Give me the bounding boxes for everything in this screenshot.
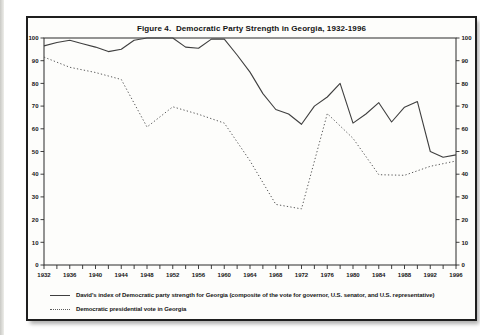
x-tick-label: 1948: [140, 272, 154, 278]
series-line-davids-index: [44, 38, 456, 157]
legend-item-davids-index: David's index of Democratic party streng…: [50, 288, 470, 302]
legend-label-davids-index: David's index of Democratic party streng…: [76, 292, 434, 298]
x-tick-label: 1996: [449, 272, 463, 278]
y-tick-label-right: 50: [462, 149, 469, 155]
y-tick-label-right: 10: [462, 240, 469, 246]
legend-item-presidential-vote: Democratic presidential vote in Georgia: [50, 302, 470, 316]
x-axis-ticks: [44, 265, 456, 269]
legend-label-presidential-vote: Democratic presidential vote in Georgia: [76, 306, 186, 312]
figure-box: Figure 4. Democratic Party Strength in G…: [26, 16, 477, 321]
x-tick-label: 1964: [243, 272, 257, 278]
y-tick-label-left: 10: [32, 240, 39, 246]
y-tick-label-right: 100: [462, 35, 473, 41]
x-tick-label: 1984: [372, 272, 386, 278]
x-tick-label: 1988: [398, 272, 412, 278]
x-axis-labels: 1932193619401944194819521956196019641968…: [37, 272, 463, 278]
y-tick-label-left: 20: [32, 217, 39, 223]
y-tick-label-right: 20: [462, 217, 469, 223]
x-tick-label: 1980: [346, 272, 360, 278]
y-tick-label-left: 50: [32, 149, 39, 155]
x-tick-label: 1936: [63, 272, 77, 278]
y-tick-label-right: 0: [462, 262, 466, 268]
y-tick-label-left: 70: [32, 103, 39, 109]
series-line-presidential-vote: [44, 57, 456, 209]
y-tick-label-right: 30: [462, 194, 469, 200]
chart-legend: David's index of Democratic party streng…: [50, 288, 470, 316]
x-tick-label: 1944: [115, 272, 129, 278]
y-tick-label-left: 0: [35, 262, 39, 268]
x-tick-label: 1972: [295, 272, 309, 278]
x-tick-label: 1952: [166, 272, 180, 278]
scan-page-edge: [0, 0, 4, 335]
x-tick-label: 1992: [424, 272, 438, 278]
y-tick-label-left: 80: [32, 81, 39, 87]
y-tick-label-left: 60: [32, 126, 39, 132]
x-tick-label: 1976: [321, 272, 335, 278]
x-tick-label: 1956: [192, 272, 206, 278]
x-tick-label: 1960: [218, 272, 232, 278]
y-tick-label-left: 90: [32, 58, 39, 64]
x-tick-label: 1932: [37, 272, 51, 278]
y-tick-label-right: 40: [462, 171, 469, 177]
x-tick-label: 1968: [269, 272, 283, 278]
line-chart: 0010102020303040405050606070708080909010…: [28, 18, 475, 319]
y-tick-label-left: 100: [28, 35, 39, 41]
y-tick-label-left: 30: [32, 194, 39, 200]
y-tick-label-right: 60: [462, 126, 469, 132]
y-tick-label-right: 70: [462, 103, 469, 109]
x-tick-label: 1940: [89, 272, 103, 278]
y-tick-label-right: 80: [462, 81, 469, 87]
solid-line-sample-icon: [50, 295, 70, 296]
y-axis-labels: 0010102020303040405050606070708080909010…: [28, 35, 472, 268]
dotted-line-sample-icon: [50, 309, 70, 310]
y-tick-label-right: 90: [462, 58, 469, 64]
y-tick-label-left: 40: [32, 171, 39, 177]
